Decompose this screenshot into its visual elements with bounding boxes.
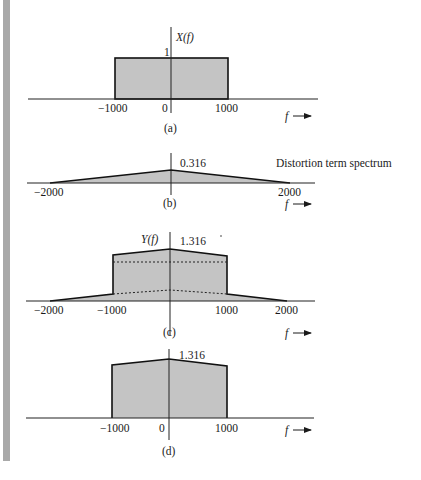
panel-c: Y(f) 1.316 −2000 −1000 1000 2000 f (c): [26, 232, 315, 340]
tick-c-neg2000: −2000: [34, 304, 64, 316]
peak-label-c: 1.316: [180, 235, 206, 247]
combined-spectrum-c: [50, 249, 287, 301]
panel-d: 1.316 −1000 0 1000 f (d): [26, 349, 314, 458]
tick-c-2000: 2000: [275, 304, 298, 316]
tick-a-neg1000: −1000: [98, 102, 128, 114]
annotation-b: Distortion term spectrum: [276, 157, 392, 170]
ylabel-c: Y(f): [141, 233, 158, 246]
peak-label-d: 1.316: [179, 349, 205, 361]
spectrum-figure: X(f) 1 −1000 0 1000 f (a) 0.316 Distorti…: [0, 0, 421, 480]
tick-c-1000: 1000: [215, 304, 238, 316]
tick-b-neg2000: −2000: [34, 186, 64, 198]
xlabel-c: f: [285, 327, 290, 340]
tick-d-0: 0: [159, 422, 165, 434]
tick-a-1000: 1000: [215, 102, 238, 114]
peak-label-a: 1: [164, 46, 170, 58]
xlabel-a: f: [285, 110, 290, 123]
tick-a-0: 0: [162, 102, 168, 114]
tick-d-neg1000: −1000: [100, 422, 130, 434]
tick-d-1000: 1000: [215, 422, 238, 434]
caption-c: (c): [163, 326, 176, 339]
xlabel-b: f: [285, 198, 290, 211]
tick-c-neg1000: −1000: [97, 304, 127, 316]
speck: [220, 235, 222, 237]
caption-b: (b): [163, 197, 177, 210]
xlabel-d: f: [285, 424, 290, 437]
caption-d: (d): [162, 445, 176, 458]
panel-a: X(f) 1 −1000 0 1000 f (a): [28, 27, 318, 135]
triangle-spectrum-b: [50, 170, 290, 183]
panel-b: 0.316 Distortion term spectrum −2000 200…: [27, 153, 392, 211]
ylabel-a: X(f): [175, 31, 194, 44]
tick-b-2000: 2000: [278, 186, 301, 198]
peak-label-b: 0.316: [180, 157, 206, 169]
caption-a: (a): [164, 122, 177, 135]
